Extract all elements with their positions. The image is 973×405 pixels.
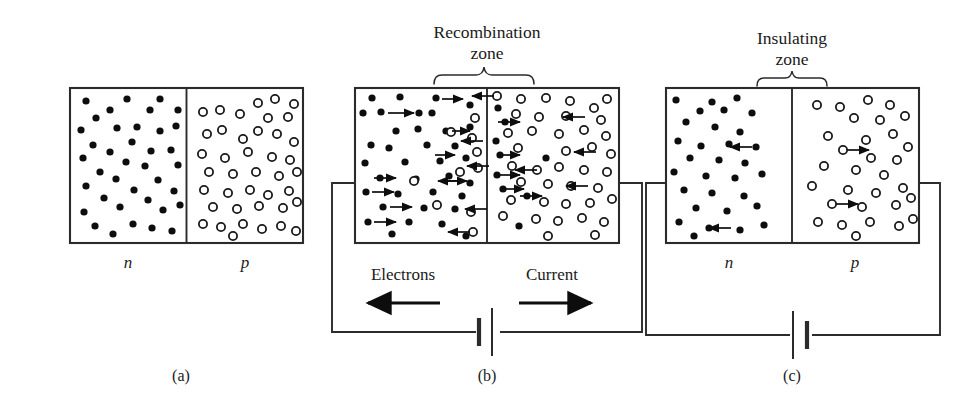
panel-b: Recombination zone: [332, 22, 642, 385]
panel-b-zone-label-line1: Recombination: [434, 22, 541, 42]
panel-c-label-n: n: [725, 253, 734, 272]
panel-c-zone-label-line2: zone: [775, 49, 808, 69]
panel-c: Insulating zone: [646, 28, 940, 385]
panel-a: n p (a): [70, 88, 303, 385]
panel-b-zone-label-line2: zone: [470, 43, 503, 63]
panel-c-caption: (c): [783, 367, 801, 385]
panel-b-electrons-label: Electrons: [371, 265, 435, 284]
panel-b-zone-brace: [434, 67, 534, 84]
panel-c-zone-brace: [757, 71, 827, 86]
panel-a-label-p: p: [240, 253, 250, 272]
panel-a-caption: (a): [172, 367, 190, 385]
pn-junction-figure: n p (a) Recombination zone: [0, 0, 973, 405]
panel-c-label-p: p: [850, 253, 860, 272]
panel-b-caption: (b): [478, 367, 497, 385]
panel-a-label-n: n: [124, 253, 133, 272]
panel-b-current-label: Current: [526, 265, 578, 284]
panel-c-zone-label-line1: Insulating: [757, 28, 827, 48]
